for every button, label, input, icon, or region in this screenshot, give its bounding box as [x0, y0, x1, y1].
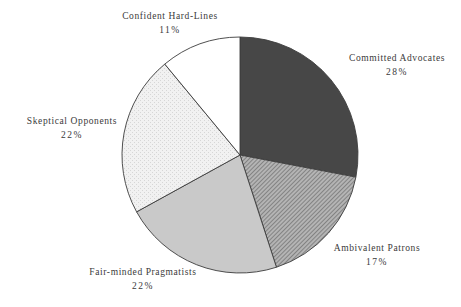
slice-name: Confident Hard-Lines	[122, 11, 218, 21]
slice-percent: 22%	[89, 279, 196, 293]
slice-name: Skeptical Opponents	[27, 116, 117, 126]
slice-percent: 11%	[122, 23, 218, 37]
label-ambivalent-patrons: Ambivalent Patrons 17%	[334, 241, 421, 269]
pie-slices	[122, 37, 358, 273]
pie-slice-committed-advocates	[240, 37, 358, 177]
label-skeptical-opponents: Skeptical Opponents 22%	[27, 114, 117, 142]
label-confident-hard-lines: Confident Hard-Lines 11%	[122, 9, 218, 37]
slice-percent: 28%	[349, 65, 445, 79]
label-fair-minded-pragmatists: Fair-minded Pragmatists 22%	[89, 265, 196, 293]
label-committed-advocates: Committed Advocates 28%	[349, 51, 445, 79]
slice-name: Ambivalent Patrons	[334, 243, 421, 253]
slice-name: Fair-minded Pragmatists	[89, 267, 196, 277]
slice-name: Committed Advocates	[349, 53, 445, 63]
slice-percent: 22%	[27, 128, 117, 142]
slice-percent: 17%	[334, 255, 421, 269]
